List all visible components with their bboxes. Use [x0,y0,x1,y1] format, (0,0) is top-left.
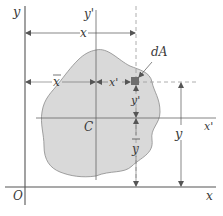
area-element-dA [131,77,139,85]
label-dim-x: x [80,26,87,40]
label-origin-O: O [13,189,23,203]
label-x-prime-axis: x' [204,120,213,133]
label-dim-x-bar: x [53,75,60,89]
label-x-axis: x [206,189,213,203]
label-dA: dA [151,45,168,59]
label-y-axis: y [12,4,21,19]
label-dim-y-prime: y' [130,94,140,107]
label-centroid-C: C [84,120,93,134]
label-y-prime-axis: y' [83,7,94,21]
label-dim-y: y [174,126,183,141]
centroid-diagram: y y' x dA x x' y' C x' y y O x [0,0,223,216]
irregular-area [41,50,160,177]
label-dim-y-bar: y [131,142,139,156]
label-dim-x-prime: x' [109,76,118,89]
